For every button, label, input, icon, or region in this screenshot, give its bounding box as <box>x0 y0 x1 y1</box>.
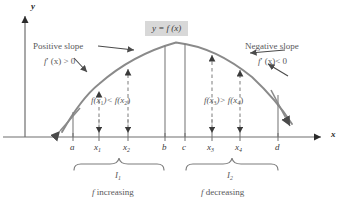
increasing-decreasing-function-diagram: y x y = f (x) Positive slope f′ (x) > 0 … <box>0 0 349 208</box>
tick-label-a: a <box>70 143 75 152</box>
ineq-left-mid: )< f <box>103 95 117 105</box>
ineq-left-end: ) <box>127 95 130 105</box>
tick-label-d-text: d <box>275 142 280 152</box>
tick-label-x4: x4 <box>235 143 242 152</box>
brace-interval-I1 <box>74 158 164 170</box>
ineq-right-arg1: (x <box>207 95 214 105</box>
ineq-left-sub2: 2 <box>124 100 127 106</box>
inequality-left: f(x1)< f(x2) <box>91 96 130 105</box>
interval-I2-subscript: 2 <box>230 175 233 181</box>
negative-slope-label: Negative slope <box>245 42 299 51</box>
interval-I1-caption-rest: increasing <box>95 187 134 197</box>
leader-arrow-positive-slope-top <box>98 46 134 50</box>
tangent-segment-right <box>271 90 290 126</box>
negative-slope-derivative: f′ (x)< 0 <box>258 57 287 66</box>
ineq-right-end: ) <box>240 95 243 105</box>
positive-slope-label: Positive slope <box>33 42 83 51</box>
tick-label-x3: x3 <box>207 143 214 152</box>
tick-label-x2: x2 <box>123 143 130 152</box>
derivative-rest-right: (x)< 0 <box>262 56 287 66</box>
tick-label-a-text: a <box>70 142 75 152</box>
tangent-segment-left <box>60 108 80 131</box>
inequality-right: f(x3)> f(x4) <box>204 96 243 105</box>
leader-arrow-positive-slope-tangent <box>74 58 87 72</box>
interval-I2-caption-rest: decreasing <box>204 187 245 197</box>
interval-label-I2: I2 <box>227 171 233 180</box>
x-axis-label: x <box>331 130 336 139</box>
tick-label-x2-sub: 2 <box>127 147 130 153</box>
tick-label-x1: x1 <box>94 143 101 152</box>
tick-label-b: b <box>162 143 167 152</box>
ineq-right-mid: )> f <box>216 95 230 105</box>
interval-caption-I2: f decreasing <box>201 188 244 197</box>
interval-label-I1: I1 <box>115 171 121 180</box>
ineq-right-sub2: 4 <box>237 100 240 106</box>
tick-label-c: c <box>182 143 186 152</box>
tick-label-d: d <box>275 143 280 152</box>
positive-slope-derivative: f′ (x) > 0 <box>44 57 75 66</box>
ineq-left-sub1: 1 <box>101 100 104 106</box>
tick-label-x4-sub: 4 <box>239 147 242 153</box>
tick-label-x3-sub: 3 <box>211 147 214 153</box>
brace-interval-I2 <box>186 158 278 170</box>
interval-caption-I1: f increasing <box>92 188 134 197</box>
tick-label-x1-sub: 1 <box>98 147 101 153</box>
ineq-left-arg1: (x <box>94 95 101 105</box>
tick-label-c-text: c <box>182 142 186 152</box>
function-equation-label: y = f (x) <box>145 21 188 36</box>
y-axis-label: y <box>31 2 35 11</box>
ineq-right-sub1: 3 <box>214 100 217 106</box>
derivative-rest-left: (x) > 0 <box>48 56 75 66</box>
tick-label-b-text: b <box>162 142 167 152</box>
interval-I1-subscript: 1 <box>118 175 121 181</box>
